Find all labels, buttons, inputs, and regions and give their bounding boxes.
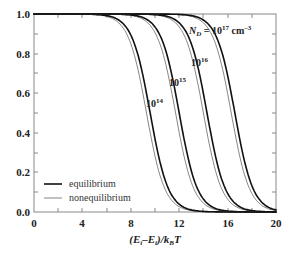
y-tick-label: 1.0 bbox=[16, 8, 30, 20]
label-nd-1e14: 1014 bbox=[146, 97, 164, 109]
x-axis-title: (Et–Ei)/kBT bbox=[129, 233, 182, 247]
x-tick-label: 20 bbox=[271, 217, 283, 229]
x-tick-label: 16 bbox=[223, 217, 235, 229]
x-tick-label: 8 bbox=[128, 217, 134, 229]
y-axis-ticks bbox=[34, 34, 276, 192]
chart: 1.0 0.8 0.6 0.4 0.2 0.0 0 4 8 12 16 20 (… bbox=[0, 0, 294, 254]
label-nd-1e16: 1016 bbox=[191, 56, 209, 68]
legend: equilibrium nonequilibrium bbox=[44, 178, 131, 203]
label-nd-1e17: ND = 1017 cm–3 bbox=[188, 24, 252, 38]
x-tick-label: 12 bbox=[174, 217, 186, 229]
y-tick-labels: 1.0 0.8 0.6 0.4 0.2 0.0 bbox=[16, 8, 30, 218]
x-tick-label: 4 bbox=[79, 217, 85, 229]
y-tick-label: 0.8 bbox=[16, 48, 30, 60]
x-tick-labels: 0 4 8 12 16 20 bbox=[31, 217, 282, 229]
legend-equilibrium-label: equilibrium bbox=[69, 178, 116, 189]
label-nd-1e15: 1015 bbox=[169, 76, 187, 88]
y-tick-label: 0.6 bbox=[16, 87, 30, 99]
legend-nonequilibrium-label: nonequilibrium bbox=[69, 192, 131, 203]
y-tick-label: 0.2 bbox=[16, 166, 30, 178]
y-tick-label: 0.4 bbox=[16, 127, 30, 139]
y-tick-label: 0.0 bbox=[16, 206, 30, 218]
x-tick-label: 0 bbox=[31, 217, 37, 229]
